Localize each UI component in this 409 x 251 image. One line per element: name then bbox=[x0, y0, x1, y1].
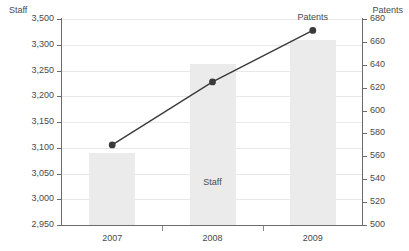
right-axis-tick bbox=[363, 133, 367, 134]
right-axis-tick bbox=[363, 179, 367, 180]
patents-polyline bbox=[112, 30, 313, 144]
patents-marker-2008 bbox=[209, 79, 216, 86]
patents-marker-2007 bbox=[109, 142, 116, 149]
patents-marker-2009 bbox=[309, 27, 316, 34]
left-axis-tick-label: 3,300 bbox=[31, 40, 54, 49]
right-axis-tick bbox=[363, 42, 367, 43]
line-series-patents bbox=[62, 19, 363, 225]
chart-container: Staff Patents 3,5003,3003,2503,2003,1503… bbox=[0, 0, 409, 251]
right-axis-tick bbox=[363, 111, 367, 112]
right-axis-tick bbox=[363, 156, 367, 157]
left-axis-title: Staff bbox=[9, 5, 27, 15]
right-axis-tick-label: 540 bbox=[370, 174, 385, 183]
left-axis-tick-label: 3,150 bbox=[31, 117, 54, 126]
x-axis-line bbox=[61, 225, 363, 226]
x-axis-label-2008: 2008 bbox=[202, 233, 222, 243]
right-axis-tick bbox=[363, 202, 367, 203]
left-axis-tick-label: 3,100 bbox=[31, 143, 54, 152]
x-axis-tick bbox=[263, 226, 264, 231]
right-axis-tick bbox=[363, 65, 367, 66]
right-axis-tick-label: 600 bbox=[370, 106, 385, 115]
patents-series-label: Patents bbox=[298, 12, 329, 22]
right-axis-tick-label: 520 bbox=[370, 197, 385, 206]
right-axis-tick-label: 620 bbox=[370, 83, 385, 92]
x-axis-label-2009: 2009 bbox=[303, 233, 323, 243]
right-axis-tick-label: 680 bbox=[370, 14, 385, 23]
right-axis-tick bbox=[363, 19, 367, 20]
plot-area bbox=[62, 19, 363, 225]
left-axis-tick-label: 3,500 bbox=[31, 14, 54, 23]
staff-series-label: Staff bbox=[203, 177, 221, 187]
right-axis-tick-label: 500 bbox=[370, 220, 385, 229]
right-axis-tick-label: 580 bbox=[370, 128, 385, 137]
right-axis-tick-label: 640 bbox=[370, 60, 385, 69]
right-axis-tick-label: 560 bbox=[370, 151, 385, 160]
left-axis-tick-label: 3,200 bbox=[31, 91, 54, 100]
left-axis-tick-label: 3,250 bbox=[31, 66, 54, 75]
x-axis-label-2007: 2007 bbox=[102, 233, 122, 243]
left-axis-tick-label: 3,050 bbox=[31, 169, 54, 178]
right-axis-tick-label: 660 bbox=[370, 37, 385, 46]
right-axis-tick bbox=[363, 88, 367, 89]
left-axis-tick-label: 3,000 bbox=[31, 194, 54, 203]
x-axis-tick bbox=[162, 226, 163, 231]
left-axis-tick-label: 2,950 bbox=[31, 220, 54, 229]
right-axis-tick bbox=[363, 225, 367, 226]
